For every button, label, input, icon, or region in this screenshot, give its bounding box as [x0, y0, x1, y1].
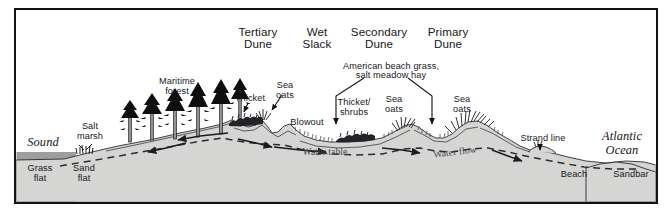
- thicket-leader: [244, 103, 248, 112]
- label-sea-oats-primary: Sea oats: [444, 95, 480, 114]
- label-primary-dune: Primary Dune: [413, 26, 483, 50]
- label-strand-line: Strand line: [510, 134, 576, 144]
- label-secondary-dune: Secondary Dune: [335, 26, 423, 50]
- label-thicket-shrubs: Thicket/ shrubs: [328, 98, 380, 117]
- label-blowout: Blowout: [278, 118, 336, 128]
- label-sea-oats-tertiary: Sea oats: [267, 81, 303, 100]
- label-sound: Sound: [10, 136, 76, 149]
- coastal-dune-profile-diagram: Tertiary Dune Wet Slack Secondary Dune P…: [0, 0, 672, 214]
- label-sandbar: Sandbar: [602, 170, 660, 180]
- label-water-table: Water table: [291, 147, 359, 157]
- label-grass-flat: Grass flat: [16, 164, 64, 183]
- label-atlantic-ocean-line2: Ocean: [590, 144, 654, 157]
- label-sand-flat: Sand flat: [60, 164, 108, 183]
- label-atlantic-ocean-line1: Atlantic: [590, 130, 654, 143]
- label-sea-oats-slack: Sea oats: [376, 95, 412, 114]
- label-maritime-forest: Maritime forest: [143, 77, 211, 96]
- label-american-beach-grass-line2: salt meadow hay: [318, 71, 464, 81]
- label-beach: Beach: [548, 170, 600, 180]
- label-tertiary-dune: Tertiary Dune: [222, 26, 294, 50]
